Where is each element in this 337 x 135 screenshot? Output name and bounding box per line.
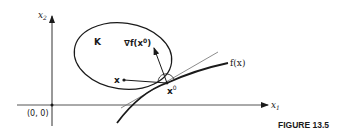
point-x0	[166, 82, 169, 85]
set-k-label: K	[94, 37, 102, 47]
point-x0-label: x0	[167, 84, 177, 96]
figure-caption: FIGURE 13.5	[278, 120, 329, 130]
origin-dot	[51, 104, 54, 107]
curve-f-label: f(x)	[230, 58, 245, 68]
point-x-label: x	[114, 75, 120, 85]
point-x	[122, 78, 125, 81]
tangent-line	[121, 52, 218, 108]
set-k-ellipse	[70, 17, 176, 96]
gradient-label: ∇f(x0)	[124, 37, 151, 48]
axes	[17, 16, 268, 126]
x2-axis-label: x2	[38, 10, 47, 21]
gradient-arrow	[154, 48, 167, 83]
x1-axis-label: x1	[271, 100, 280, 111]
origin-label: (0, 0)	[27, 109, 49, 118]
figure-canvas: x2 x1 (0, 0) K f(x) ∇f(x0) x x0 FIGURE 1…	[0, 0, 337, 135]
